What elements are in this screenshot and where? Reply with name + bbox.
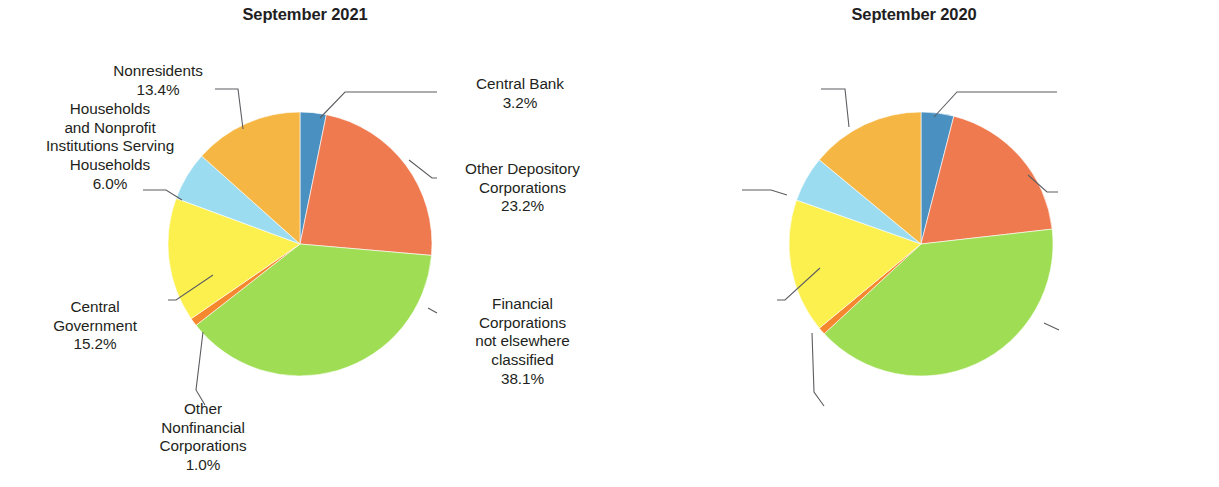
- pie-svg-right: [609, 0, 1219, 487]
- chart-panel-september-2020: September 2020 Nonresidents 14.0% Househ…: [609, 0, 1219, 487]
- leader-line-central-bank-left: [320, 92, 437, 118]
- leader-line-financial-nec-left: [428, 308, 437, 313]
- leader-line-nonresidents-right: [821, 89, 849, 127]
- leader-line-financial-nec-right: [1044, 323, 1059, 330]
- leader-line-other-nonfinancial-right: [812, 333, 824, 406]
- pie-label-central-bank-left: Central Bank 3.2%: [440, 75, 600, 112]
- pie-label-other-depository-left: Other Depository Corporations 23.2%: [440, 160, 605, 216]
- leader-line-households-right: [742, 190, 787, 195]
- pie-label-other-nonfinancial-left: Other Nonfinancial Corporations 1.0%: [128, 400, 278, 475]
- pie-label-nonresidents-left: Nonresidents 13.4%: [78, 62, 238, 99]
- leader-line-central-bank-right: [934, 92, 1057, 117]
- pie-label-households-left: Households and Nonprofit Institutions Se…: [10, 100, 210, 193]
- chart-panel-september-2021: September 2021 Nonresidents 13.4% Househ…: [0, 0, 610, 487]
- pie-label-central-government-left: Central Government 15.2%: [20, 298, 170, 354]
- pie-chart-right: [609, 0, 1219, 487]
- pie-label-financial-nec-left: Financial Corporations not elsewhere cla…: [440, 295, 605, 388]
- leader-line-other-depository-left: [409, 160, 437, 178]
- pie-slices-right: [789, 112, 1053, 376]
- leader-line-other-nonfinancial-left: [196, 332, 205, 405]
